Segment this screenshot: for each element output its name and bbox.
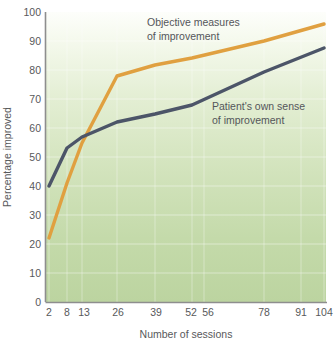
x-tick-2: 2 bbox=[46, 306, 52, 318]
y-tick-70: 70 bbox=[29, 93, 41, 105]
x-tick-104: 104 bbox=[315, 306, 333, 318]
x-tick-91: 91 bbox=[295, 306, 307, 318]
x-axis-tick-labels: 2 8 13 26 39 52 56 78 91 104 bbox=[46, 306, 333, 318]
x-tick-13: 13 bbox=[78, 306, 90, 318]
y-tick-60: 60 bbox=[29, 122, 41, 134]
x-axis-title: Number of sessions bbox=[140, 328, 233, 340]
chart-container: 100 90 80 70 60 50 40 30 20 10 0 2 8 13 … bbox=[0, 0, 335, 344]
patient-sense-label-line2: of improvement bbox=[212, 114, 284, 126]
objective-measures-label-line2: of improvement bbox=[147, 30, 219, 42]
y-axis-title: Percentage improved bbox=[1, 107, 13, 207]
objective-measures-label-line1: Objective measures bbox=[147, 16, 240, 28]
x-tick-8: 8 bbox=[64, 306, 70, 318]
x-tick-26: 26 bbox=[112, 306, 124, 318]
x-tick-39: 39 bbox=[150, 306, 162, 318]
y-tick-40: 40 bbox=[29, 180, 41, 192]
x-tick-78: 78 bbox=[258, 306, 270, 318]
y-tick-0: 0 bbox=[35, 296, 41, 308]
x-tick-52: 52 bbox=[185, 306, 197, 318]
patient-sense-label-line1: Patient's own sense bbox=[212, 100, 305, 112]
y-tick-100: 100 bbox=[23, 6, 41, 18]
y-tick-80: 80 bbox=[29, 64, 41, 76]
x-tick-56: 56 bbox=[202, 306, 214, 318]
line-chart: 100 90 80 70 60 50 40 30 20 10 0 2 8 13 … bbox=[0, 0, 335, 344]
y-tick-20: 20 bbox=[29, 238, 41, 250]
y-tick-50: 50 bbox=[29, 151, 41, 163]
y-axis-tick-labels: 100 90 80 70 60 50 40 30 20 10 0 bbox=[23, 6, 41, 308]
y-tick-30: 30 bbox=[29, 209, 41, 221]
y-tick-10: 10 bbox=[29, 267, 41, 279]
y-tick-90: 90 bbox=[29, 35, 41, 47]
